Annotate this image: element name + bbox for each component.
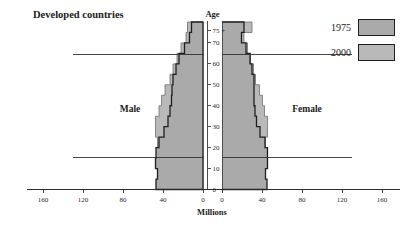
age-tick-label: 30 xyxy=(213,123,221,131)
value-tick-label: 0 xyxy=(220,196,224,204)
value-tick-label: 80 xyxy=(120,196,128,204)
value-axis-title: Millions xyxy=(197,207,227,217)
value-tick-label: 120 xyxy=(337,196,348,204)
value-tick-label: 80 xyxy=(299,196,307,204)
age-tick-label: 75 + xyxy=(213,27,226,35)
age-tick-label: 60 xyxy=(213,60,221,68)
value-tick-label: 40 xyxy=(259,196,267,204)
legend-swatch-1975 xyxy=(358,19,394,35)
age-tick-label: 10 xyxy=(213,165,221,173)
legend-label-2000: 2000 xyxy=(331,47,351,58)
age-tick-label: 40 xyxy=(213,102,221,110)
age-axis-title: Age xyxy=(205,9,219,19)
age-tick-label: 50 xyxy=(213,81,221,89)
legend-swatch-2000 xyxy=(358,44,394,60)
value-tick-label: 160 xyxy=(38,196,49,204)
value-tick-label: 120 xyxy=(78,196,89,204)
population-pyramid-figure: Developed countries Age 0102030405060707… xyxy=(0,0,411,228)
value-tick-label: 0 xyxy=(201,196,205,204)
chart-title: Developed countries xyxy=(33,9,124,20)
value-tick-label: 160 xyxy=(377,196,388,204)
male-group-label: Male xyxy=(120,104,141,114)
age-tick-label: 20 xyxy=(213,144,221,152)
value-tick-label: 40 xyxy=(160,196,168,204)
legend-label-1975: 1975 xyxy=(331,22,351,33)
female-group-label: Female xyxy=(292,104,322,114)
pyramid-svg: Developed countries Age 0102030405060707… xyxy=(0,0,411,228)
age-tick-label: 70 xyxy=(213,39,221,47)
